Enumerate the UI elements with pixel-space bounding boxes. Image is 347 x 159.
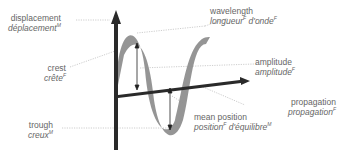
label-propagation-fr: propagationF bbox=[288, 107, 336, 117]
label-displacement-fr: déplacementM bbox=[8, 23, 61, 33]
label-wavelength: wavelength longueurF d'ondeF bbox=[210, 6, 277, 26]
label-amplitude-fr: amplitudeF bbox=[255, 67, 295, 77]
label-wavelength-fr: longueurF d'ondeF bbox=[210, 16, 277, 26]
label-mean-position: mean position positionF d'équilibreM bbox=[194, 112, 271, 132]
label-mean-position-en: mean position bbox=[194, 112, 271, 122]
amplitude-arrows bbox=[135, 43, 172, 130]
label-amplitude-en: amplitude bbox=[255, 57, 295, 67]
label-displacement: displacement déplacementM bbox=[8, 13, 61, 33]
label-trough: trough creuxM bbox=[28, 120, 53, 140]
label-crest-fr: crêteF bbox=[44, 73, 66, 83]
label-propagation-en: propagation bbox=[288, 97, 336, 107]
label-propagation: propagation propagationF bbox=[288, 97, 336, 117]
displacement-axis bbox=[111, 10, 121, 150]
label-crest: crest crêteF bbox=[44, 63, 66, 83]
label-displacement-en: displacement bbox=[8, 13, 61, 23]
label-trough-fr: creuxM bbox=[28, 130, 53, 140]
label-amplitude: amplitude amplitudeF bbox=[255, 57, 295, 77]
label-mean-position-fr: positionF d'équilibreM bbox=[194, 122, 271, 132]
